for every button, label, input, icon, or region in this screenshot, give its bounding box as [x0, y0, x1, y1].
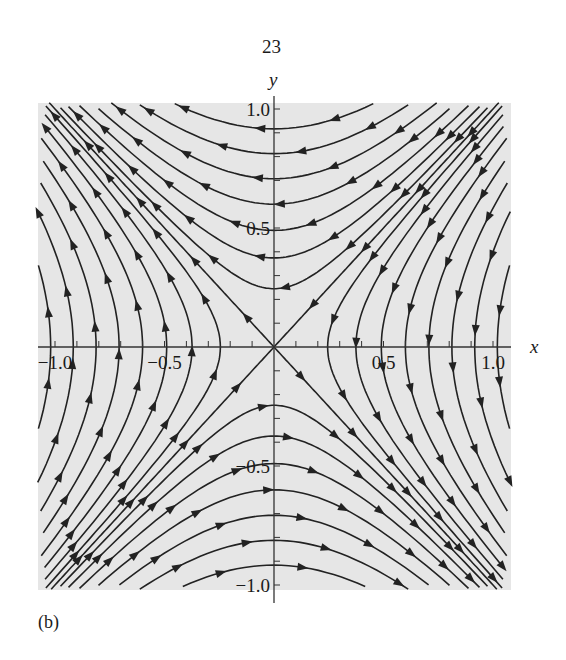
y-tick-label: −0.5: [236, 456, 270, 477]
x-tick-label: −1.0: [38, 352, 72, 373]
y-axis-label: y: [267, 69, 278, 90]
x-tick-label: 1.0: [481, 352, 505, 373]
figure-label: (b): [38, 612, 59, 633]
y-tick-label: 0.5: [246, 218, 270, 239]
y-tick-label: 1.0: [246, 99, 270, 120]
y-tick-label: −1.0: [236, 575, 270, 596]
x-tick-label: −0.5: [147, 352, 181, 373]
phase-portrait-plot: −1.0−0.50.51.0−1.0−0.50.51.0xy: [0, 0, 566, 660]
x-tick-label: 0.5: [372, 352, 396, 373]
x-axis-label: x: [529, 336, 539, 357]
